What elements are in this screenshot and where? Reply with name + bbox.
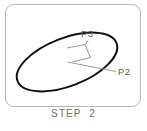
figure-root: P3 P2 STEP 2	[0, 0, 147, 131]
point-label-p3: P3	[81, 28, 93, 39]
step-caption: STEP 2	[0, 108, 147, 119]
point-label-p2: P2	[118, 66, 130, 77]
main-ellipse	[9, 21, 125, 104]
chord-line-to-p3	[85, 41, 88, 45]
right-angle-marker	[67, 45, 91, 63]
